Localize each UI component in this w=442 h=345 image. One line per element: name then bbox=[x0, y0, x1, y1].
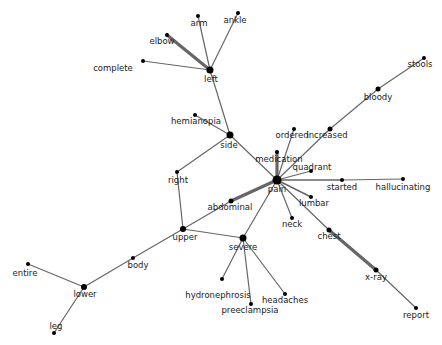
node-label-pain: pain bbox=[268, 184, 286, 194]
node-label-chest: chest bbox=[317, 231, 341, 241]
node-label-hallucinating: hallucinating bbox=[376, 182, 431, 192]
node-label-headaches: headaches bbox=[262, 295, 309, 305]
node-label-ordered: ordered bbox=[275, 130, 308, 140]
node-hallucinating bbox=[401, 177, 405, 181]
node-label-stools: stools bbox=[408, 59, 434, 69]
node-label-lower: lower bbox=[73, 289, 97, 299]
node-complete bbox=[141, 59, 145, 63]
node-hydronephrosis bbox=[220, 277, 224, 281]
node-entire bbox=[26, 262, 30, 266]
node-label-abdominal: abdominal bbox=[208, 202, 253, 212]
node-label-preeclampsia: preeclampsia bbox=[221, 305, 278, 315]
node-label-body: body bbox=[127, 260, 148, 270]
node-label-entire: entire bbox=[13, 268, 38, 278]
node-label-neck: neck bbox=[282, 219, 302, 229]
node-label-arm: arm bbox=[191, 18, 208, 28]
node-label-increased: increased bbox=[306, 130, 347, 140]
node-label-upper: upper bbox=[173, 232, 198, 242]
node-label-report: report bbox=[403, 310, 430, 320]
node-severe bbox=[240, 235, 247, 242]
node-label-hydronephrosis: hydronephrosis bbox=[185, 290, 251, 300]
network-diagram: painsideleftarmankleelbowcompletehemiano… bbox=[0, 0, 442, 345]
edge-body-lower bbox=[84, 258, 133, 287]
edges-layer bbox=[28, 13, 424, 333]
node-label-ankle: ankle bbox=[223, 15, 246, 25]
node-label-complete: complete bbox=[93, 63, 133, 73]
node-label-bloody: bloody bbox=[364, 92, 393, 102]
node-label-elbow: elbow bbox=[149, 36, 174, 46]
node-side bbox=[227, 132, 234, 139]
node-label-side: side bbox=[220, 140, 237, 150]
node-bloody bbox=[376, 87, 381, 92]
node-label-leg: leg bbox=[50, 321, 63, 331]
node-label-x-ray: x-ray bbox=[365, 272, 387, 282]
node-label-left: left bbox=[204, 74, 218, 84]
node-left bbox=[207, 67, 214, 74]
node-label-lumbar: lumbar bbox=[299, 198, 330, 208]
node-right bbox=[175, 170, 179, 174]
node-label-started: started bbox=[327, 182, 357, 192]
node-label-hemianopia: hemianopia bbox=[171, 116, 221, 126]
nodes-layer bbox=[26, 11, 426, 335]
node-label-quadrant: quadrant bbox=[293, 162, 332, 172]
node-label-severe: severe bbox=[229, 242, 257, 252]
edge-started-hallucinating bbox=[342, 179, 403, 180]
node-leg bbox=[52, 331, 56, 335]
node-label-right: right bbox=[168, 175, 189, 185]
